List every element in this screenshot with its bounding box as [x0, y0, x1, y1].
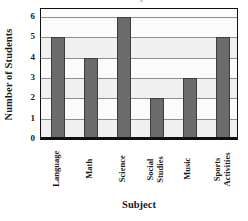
- y-axis-title: Number of Students: [0, 8, 16, 140]
- x-axis-tick-label: Math: [85, 159, 95, 179]
- gridline-5: [41, 37, 237, 38]
- x-axis-tick-labels: LanguageMathScienceSocialStudiesMusicSpo…: [40, 141, 238, 197]
- x-axis-tick-music: Music: [175, 141, 203, 197]
- gridline-3: [41, 78, 237, 79]
- gridline-1: [41, 119, 237, 120]
- gridline-6: [41, 17, 237, 18]
- gridline-4: [41, 58, 237, 59]
- bar-social-studies: [150, 98, 164, 139]
- y-axis-tick-5: 5: [31, 31, 36, 41]
- grid-band: [41, 37, 237, 57]
- bar-music: [183, 78, 197, 139]
- bar-chart: Number of Students 0123456 LanguageMathS…: [0, 0, 248, 221]
- y-axis-tick-1: 1: [31, 113, 36, 123]
- y-axis-tick-0: 0: [31, 133, 36, 143]
- y-axis-tick-2: 2: [31, 92, 36, 102]
- bar-math: [84, 58, 98, 139]
- y-axis-title-label: Number of Students: [3, 28, 14, 120]
- bar-sports-activities: [216, 37, 230, 139]
- x-axis-baseline: [41, 137, 237, 139]
- x-axis-title: Subject: [40, 199, 238, 210]
- plot-area: [40, 8, 238, 140]
- x-axis-tick-label: Language: [52, 151, 62, 187]
- grid-band: [41, 119, 237, 139]
- y-axis-tick-4: 4: [31, 52, 36, 62]
- x-axis-tick-language: Language: [43, 141, 71, 197]
- gridline-2: [41, 98, 237, 99]
- x-axis-tick-sports-activities: SportsActivities: [208, 141, 236, 197]
- bar-language: [51, 37, 65, 139]
- y-axis-tick-labels: 0123456: [18, 8, 38, 140]
- x-axis-tick-label: Music: [184, 158, 194, 180]
- x-axis-tick-social-studies: SocialStudies: [142, 141, 170, 197]
- x-axis-tick-label: Science: [118, 156, 128, 183]
- y-axis-tick-6: 6: [31, 11, 36, 21]
- bar-science: [117, 17, 131, 139]
- x-axis-tick-math: Math: [76, 141, 104, 197]
- scan-artifact-speck: [140, 0, 143, 2]
- x-axis-tick-label: SportsActivities: [212, 152, 231, 186]
- grid-band: [41, 78, 237, 98]
- x-axis-tick-label: SocialStudies: [146, 156, 165, 182]
- y-axis-tick-3: 3: [31, 72, 36, 82]
- x-axis-tick-science: Science: [109, 141, 137, 197]
